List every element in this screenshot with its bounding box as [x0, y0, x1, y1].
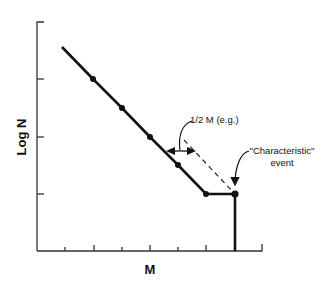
y-axis: [37, 22, 44, 251]
data-markers: [90, 76, 239, 198]
dashed-extrapolation: [184, 140, 234, 193]
half-m-leader: [180, 121, 193, 150]
x-axis-label: M: [140, 262, 160, 277]
y-axis-label: Log N: [14, 112, 29, 162]
x-axis: [37, 244, 262, 251]
recurrence-diagram: [0, 0, 328, 288]
recurrence-curve: [62, 47, 235, 251]
characteristic-line2: event: [247, 157, 317, 169]
characteristic-line1: "Characteristic": [247, 145, 317, 157]
half-m-annotation: 1/2 M (e.g.): [190, 114, 239, 125]
characteristic-event-annotation: "Characteristic" event: [247, 145, 317, 169]
